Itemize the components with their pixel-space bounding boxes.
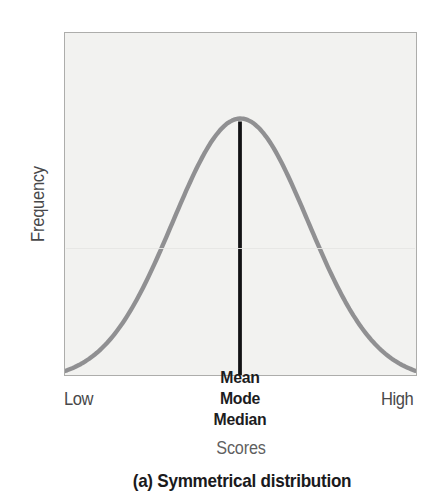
- median-label: Median: [214, 409, 267, 430]
- mode-label: Mode: [214, 388, 267, 409]
- x-axis-low-label: Low: [64, 389, 93, 410]
- figure: Frequency Low High Mean Mode Median Scor…: [0, 0, 444, 497]
- y-axis-label: Frequency: [28, 166, 49, 242]
- page: { "figure": { "ylabel": "Frequency", "xl…: [0, 0, 444, 497]
- x-axis-label: Scores: [216, 438, 265, 459]
- x-axis-high-label: High: [381, 389, 413, 410]
- scan-band-artifact: [66, 248, 415, 249]
- mean-label: Mean: [214, 367, 267, 388]
- central-tendency-labels: Mean Mode Median: [214, 367, 267, 430]
- distribution-svg: [65, 33, 416, 375]
- plot-area: [64, 32, 417, 376]
- figure-caption: (a) Symmetrical distribution: [133, 470, 352, 492]
